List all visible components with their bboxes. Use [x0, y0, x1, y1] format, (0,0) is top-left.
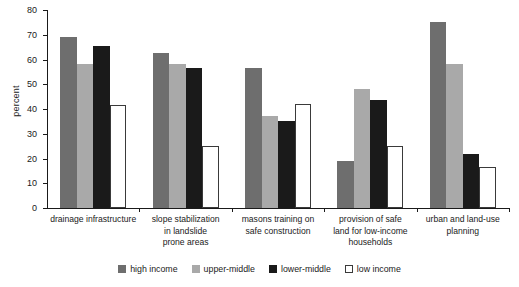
x-separator: [232, 208, 233, 212]
bar: [479, 167, 496, 208]
category-label-line: provision of safe: [318, 214, 422, 226]
y-tick-label: 60: [27, 56, 37, 65]
bar: [202, 146, 219, 208]
bar: [262, 116, 279, 208]
category-label-line: safe construction: [226, 226, 330, 238]
legend-label: upper-middle: [204, 264, 255, 274]
x-separator: [139, 208, 140, 212]
y-tick: 70: [43, 35, 47, 36]
legend-label: low income: [357, 264, 401, 274]
legend-label: high income: [130, 264, 177, 274]
bar: [153, 53, 170, 208]
legend-item[interactable]: low income: [345, 264, 401, 274]
y-tick-label: 10: [27, 179, 37, 188]
bar: [430, 22, 447, 208]
chart-legend: high incomeupper-middlelower-middlelow i…: [0, 264, 519, 274]
category-label: drainage infrastructure: [41, 214, 145, 226]
category-label-line: planning: [411, 226, 515, 238]
y-tick: 80: [43, 10, 47, 11]
category-label: provision of safeland for low-incomehous…: [318, 214, 422, 249]
bar: [93, 46, 110, 208]
category-label-line: households: [318, 237, 422, 249]
category-label-line: urban and land-use: [411, 214, 515, 226]
category-label-line: masons training on: [226, 214, 330, 226]
category-label: masons training onsafe construction: [226, 214, 330, 237]
bar: [295, 104, 312, 208]
y-tick: 30: [43, 134, 47, 135]
bar: [354, 89, 371, 208]
y-tick-label: 30: [27, 130, 37, 139]
bar-group: [430, 10, 496, 208]
bar-group: [337, 10, 403, 208]
category-label-line: in landslide: [133, 226, 237, 238]
bar-chart: percent 01020304050607080 drainage infra…: [0, 0, 519, 287]
bar: [387, 146, 404, 208]
bar-group: [153, 10, 219, 208]
y-tick-label: 80: [27, 6, 37, 15]
x-separator: [509, 208, 510, 212]
plot-area: 01020304050607080: [47, 10, 509, 208]
y-tick-label: 50: [27, 80, 37, 89]
category-label: slope stabilizationin landslideprone are…: [133, 214, 237, 249]
y-tick-label: 20: [27, 155, 37, 164]
category-label-line: drainage infrastructure: [41, 214, 145, 226]
y-tick-label: 70: [27, 31, 37, 40]
bar: [245, 68, 262, 208]
legend-swatch: [118, 265, 126, 273]
category-label-line: slope stabilization: [133, 214, 237, 226]
bar: [60, 37, 77, 208]
bar: [463, 154, 480, 208]
legend-item[interactable]: high income: [118, 264, 177, 274]
legend-item[interactable]: upper-middle: [192, 264, 255, 274]
legend-swatch: [269, 265, 277, 273]
bar-group: [245, 10, 311, 208]
bar: [370, 100, 387, 208]
bar: [186, 68, 203, 208]
y-tick: 0: [43, 208, 47, 209]
x-separator: [417, 208, 418, 212]
legend-swatch: [192, 265, 200, 273]
bar: [169, 64, 186, 208]
x-separator: [324, 208, 325, 212]
category-label: urban and land-useplanning: [411, 214, 515, 237]
bar: [278, 121, 295, 208]
y-tick: 10: [43, 183, 47, 184]
category-label-line: land for low-income: [318, 226, 422, 238]
bar: [446, 64, 463, 208]
y-tick-label: 0: [32, 204, 37, 213]
x-axis-line: [47, 208, 509, 209]
y-axis-title: percent: [11, 71, 21, 131]
bar: [77, 64, 94, 208]
y-tick: 50: [43, 84, 47, 85]
legend-swatch: [345, 265, 353, 273]
category-label-line: prone areas: [133, 237, 237, 249]
y-tick: 20: [43, 159, 47, 160]
y-tick-label: 40: [27, 105, 37, 114]
y-axis-line: [47, 10, 48, 209]
y-tick: 60: [43, 60, 47, 61]
legend-item[interactable]: lower-middle: [269, 264, 331, 274]
legend-label: lower-middle: [281, 264, 331, 274]
bar: [110, 105, 127, 208]
bar-group: [60, 10, 126, 208]
y-tick: 40: [43, 109, 47, 110]
bar: [337, 161, 354, 208]
